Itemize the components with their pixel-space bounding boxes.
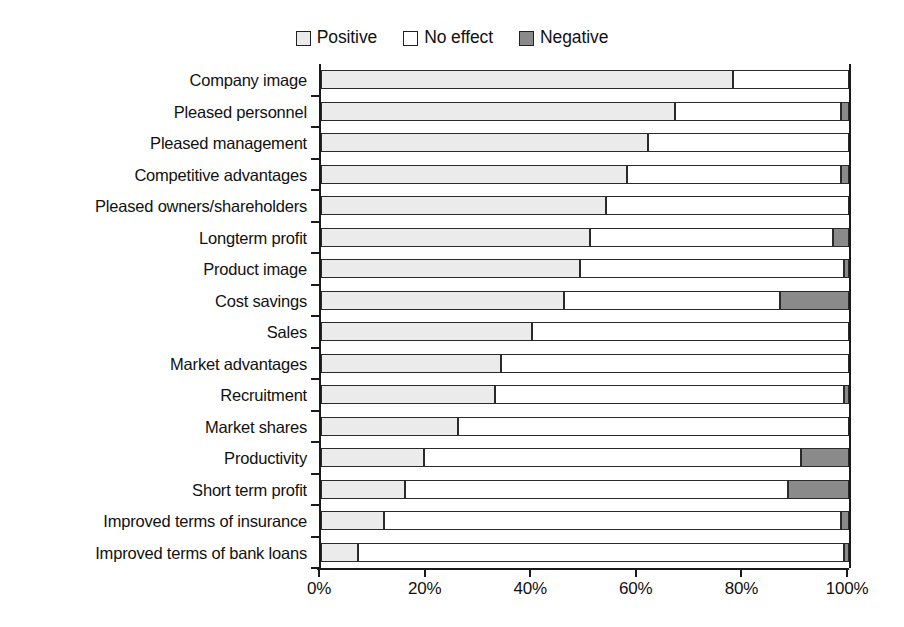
bar-row [321,543,849,562]
y-axis-label: Recruitment [220,387,307,404]
bar-segment-positive [321,70,733,89]
y-axis-label: Company image [189,72,307,89]
x-axis-line [317,568,849,570]
bar-segment-positive [321,448,424,467]
legend-item-no-effect: No effect [403,29,493,47]
x-axis-tick-label: 40% [513,580,546,597]
plot-area [319,64,851,568]
x-axis-tick-label: 60% [619,580,652,597]
bar-segment-noeffect [384,511,841,530]
y-axis-tick [311,441,319,443]
x-axis-tick-label: 0% [307,580,331,597]
y-axis-label: Market shares [205,419,307,436]
bar-segment-noeffect [424,448,802,467]
y-axis-tick [311,126,319,128]
y-axis-label: Pleased personnel [174,104,307,121]
bar-segment-noeffect [590,228,833,247]
bar-segment-positive [321,417,458,436]
bar-segment-negative [841,102,849,121]
x-axis-tick-label: 100% [826,580,869,597]
bar-segment-positive [321,165,627,184]
y-axis-tick [311,95,319,97]
bar-segment-positive [321,196,606,215]
bar-segment-positive [321,259,580,278]
bar-segment-negative [833,228,849,247]
bar-segment-negative [780,291,849,310]
y-axis-tick [311,410,319,412]
bar-segment-noeffect [358,543,844,562]
bar-segment-negative [788,480,849,499]
bar-row [321,480,849,499]
bar-segment-noeffect [501,354,849,373]
bar-row [321,259,849,278]
bar-segment-noeffect [648,133,849,152]
y-axis-label: Improved terms of bank loans [95,545,307,562]
y-axis-label: Productivity [224,450,307,467]
bar-segment-negative [841,511,849,530]
legend-label-positive: Positive [317,29,377,47]
bar-row [321,354,849,373]
bar-row [321,165,849,184]
bar-segment-positive [321,511,384,530]
y-axis-label: Pleased management [150,135,307,152]
y-axis-tick [311,347,319,349]
bar-segment-negative [841,165,849,184]
bar-segment-noeffect [675,102,841,121]
y-axis-label: Pleased owners/shareholders [95,198,307,215]
bar-segment-positive [321,385,495,404]
bar-row [321,133,849,152]
x-axis-tick [424,568,426,577]
bar-segment-negative [844,259,849,278]
bar-segment-positive [321,291,564,310]
bar-row [321,196,849,215]
bar-row [321,102,849,121]
x-axis-tick [740,568,742,577]
x-axis-tick-label: 20% [408,580,441,597]
bar-segment-positive [321,228,590,247]
bar-row [321,322,849,341]
bar-row [321,228,849,247]
bar-segment-noeffect [606,196,849,215]
bar-row [321,385,849,404]
y-axis-label: Longterm profit [199,230,307,247]
y-axis-tick [311,567,319,569]
bar-segment-negative [801,448,849,467]
y-axis-label: Competitive advantages [134,167,307,184]
x-axis-tick [318,568,320,577]
bar-segment-positive [321,133,648,152]
y-axis-label: Product image [203,261,307,278]
bar-segment-negative [844,385,849,404]
bar-segment-noeffect [532,322,849,341]
bar-row [321,417,849,436]
bar-row [321,448,849,467]
bar-row [321,70,849,89]
stacked-bar-chart: Positive No effect Negative Company imag… [0,0,904,627]
y-axis-tick [311,284,319,286]
bar-segment-noeffect [405,480,788,499]
x-axis-tick [529,568,531,577]
bar-segment-noeffect [458,417,849,436]
bar-row [321,291,849,310]
bar-segment-positive [321,354,501,373]
legend-label-negative: Negative [540,29,608,47]
y-axis-tick [311,315,319,317]
bar-segment-noeffect [495,385,843,404]
y-axis-tick [311,536,319,538]
x-axis-tick-label: 80% [725,580,758,597]
bar-segment-noeffect [580,259,844,278]
legend-swatch-no-effect [403,31,418,46]
legend-item-negative: Negative [519,29,608,47]
bar-segment-positive [321,322,532,341]
y-axis-tick [311,189,319,191]
bar-segment-negative [844,543,849,562]
y-axis-label: Sales [267,324,307,341]
x-axis-tick [635,568,637,577]
y-axis-label: Short term profit [192,482,307,499]
bar-segment-noeffect [564,291,780,310]
y-axis-tick [311,473,319,475]
bar-segment-noeffect [733,70,849,89]
y-axis-tick [311,504,319,506]
legend-swatch-negative [519,31,534,46]
y-axis-tick [311,378,319,380]
y-axis-label: Improved terms of insurance [103,513,307,530]
